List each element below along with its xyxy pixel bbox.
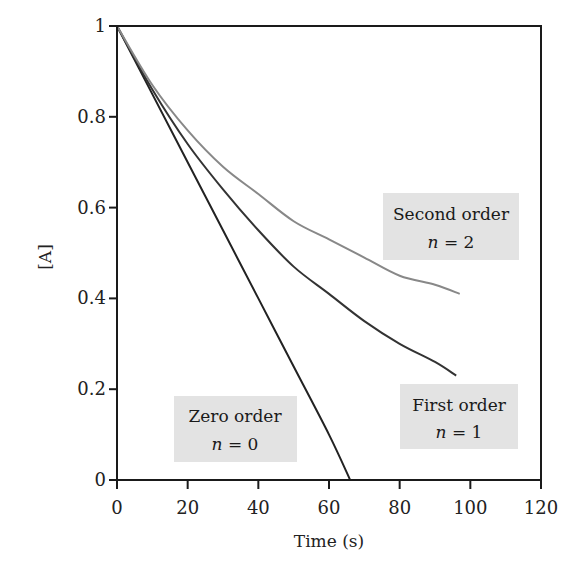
annotation-boxes: Second order n = 2 First order n = 1 Zer… [174,193,519,462]
y-tick-label: 1 [95,15,106,36]
order-value: = 2 [439,232,475,252]
x-tick-label: 60 [318,497,341,518]
annotation-second-order: Second order n = 2 [383,193,519,260]
x-tick-label: 0 [111,497,122,518]
annotation-order: n = 1 [436,422,483,442]
annotation-title: Second order [393,204,510,224]
annotation-order: n = 2 [428,232,475,252]
x-tick-label: 40 [247,497,270,518]
annotation-first-order: First order n = 1 [400,384,518,449]
y-tick-label: 0.8 [77,106,106,127]
kinetics-chart: Second order n = 2 First order n = 1 Zer… [0,0,584,567]
y-tick-label: 0.2 [77,378,106,399]
annotation-zero-order: Zero order n = 0 [174,396,297,462]
y-axis: 00.20.40.60.81 [77,15,117,490]
order-var: n [212,434,223,454]
y-tick-label: 0.4 [77,287,106,308]
x-tick-label: 100 [453,497,487,518]
x-tick-label: 80 [388,497,411,518]
y-tick-label: 0 [95,469,106,490]
order-var: n [436,422,447,442]
y-axis-title: [A] [35,244,55,270]
x-axis: 020406080100120 [111,480,558,518]
annotation-title: Zero order [188,406,282,426]
x-tick-label: 120 [524,497,558,518]
annotation-title: First order [412,395,507,415]
y-tick-label: 0.6 [77,197,106,218]
order-value: = 0 [223,434,259,454]
order-var: n [428,232,439,252]
x-tick-label: 20 [176,497,199,518]
x-axis-title: Time (s) [294,531,364,551]
order-value: = 1 [447,422,483,442]
annotation-order: n = 0 [212,434,259,454]
